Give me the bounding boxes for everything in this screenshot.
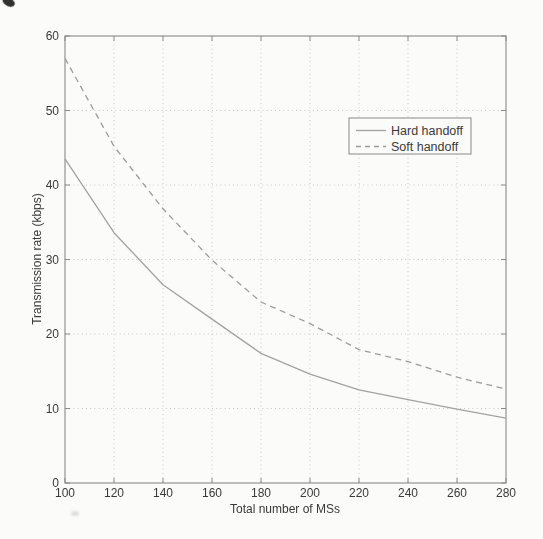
y-tick-label: 60 — [46, 29, 60, 43]
tick-marks — [65, 36, 506, 483]
x-tick-label: 180 — [251, 486, 271, 500]
x-tick-label: 260 — [447, 486, 467, 500]
legend: Hard handoff Soft handoff — [349, 118, 471, 154]
legend-label-hard-handoff: Hard handoff — [391, 124, 464, 138]
x-tick-label: 220 — [349, 486, 369, 500]
transmission-rate-chart: 1001201401601802002202402602800102030405… — [0, 0, 543, 539]
x-tick-label: 280 — [496, 486, 516, 500]
curve-hard-handoff — [65, 159, 506, 418]
tick-labels: 1001201401601802002202402602800102030405… — [46, 29, 517, 500]
y-tick-label: 20 — [46, 327, 60, 341]
y-tick-label: 10 — [46, 402, 60, 416]
legend-label-soft-handoff: Soft handoff — [391, 140, 459, 154]
x-tick-label: 160 — [202, 486, 222, 500]
x-tick-label: 200 — [300, 486, 320, 500]
y-tick-label: 40 — [46, 178, 60, 192]
scan-artifact-speck — [71, 511, 79, 516]
x-axis-label: Total number of MSs — [230, 502, 340, 516]
axes-box — [65, 36, 506, 483]
y-axis-label: Transmission rate (kbps) — [30, 193, 44, 325]
x-tick-label: 140 — [153, 486, 173, 500]
x-tick-label: 240 — [398, 486, 418, 500]
y-tick-label: 0 — [52, 476, 59, 490]
curve-soft-handoff — [65, 58, 506, 389]
y-tick-label: 50 — [46, 104, 60, 118]
y-tick-label: 30 — [46, 253, 60, 267]
gridlines — [65, 36, 506, 483]
scanned-figure-page: 1001201401601802002202402602800102030405… — [0, 0, 543, 539]
series-curves — [65, 58, 506, 418]
x-tick-label: 120 — [104, 486, 124, 500]
